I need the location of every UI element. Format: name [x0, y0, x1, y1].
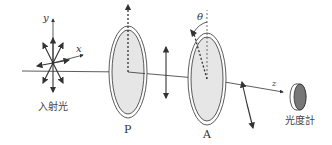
analyzer-label: A: [203, 129, 211, 140]
photometer-icon: [290, 84, 306, 110]
incident-light-icon: [37, 19, 83, 92]
polarizer-disc: [109, 5, 147, 118]
analyzer-disc: [188, 10, 226, 125]
axis-z-label: z: [272, 80, 276, 88]
tilted-polarization-arrow: [242, 82, 253, 128]
axis-x-label: x: [76, 44, 82, 54]
photometer-label: 光度計: [285, 116, 315, 126]
incident-light-label: 入射光: [38, 102, 68, 112]
polarization-diagram: [0, 0, 332, 145]
axis-y-label: y: [43, 13, 49, 23]
polarizer-label: P: [124, 124, 131, 135]
angle-theta-label: θ: [197, 12, 203, 22]
